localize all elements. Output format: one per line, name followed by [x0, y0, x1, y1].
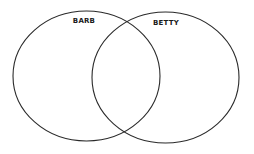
set-barb-circle	[13, 11, 160, 141]
venn-diagram: BARB BETTY	[0, 0, 254, 154]
set-barb-label: BARB	[73, 17, 95, 25]
set-betty-circle	[92, 12, 239, 143]
set-betty-label: BETTY	[153, 19, 180, 27]
